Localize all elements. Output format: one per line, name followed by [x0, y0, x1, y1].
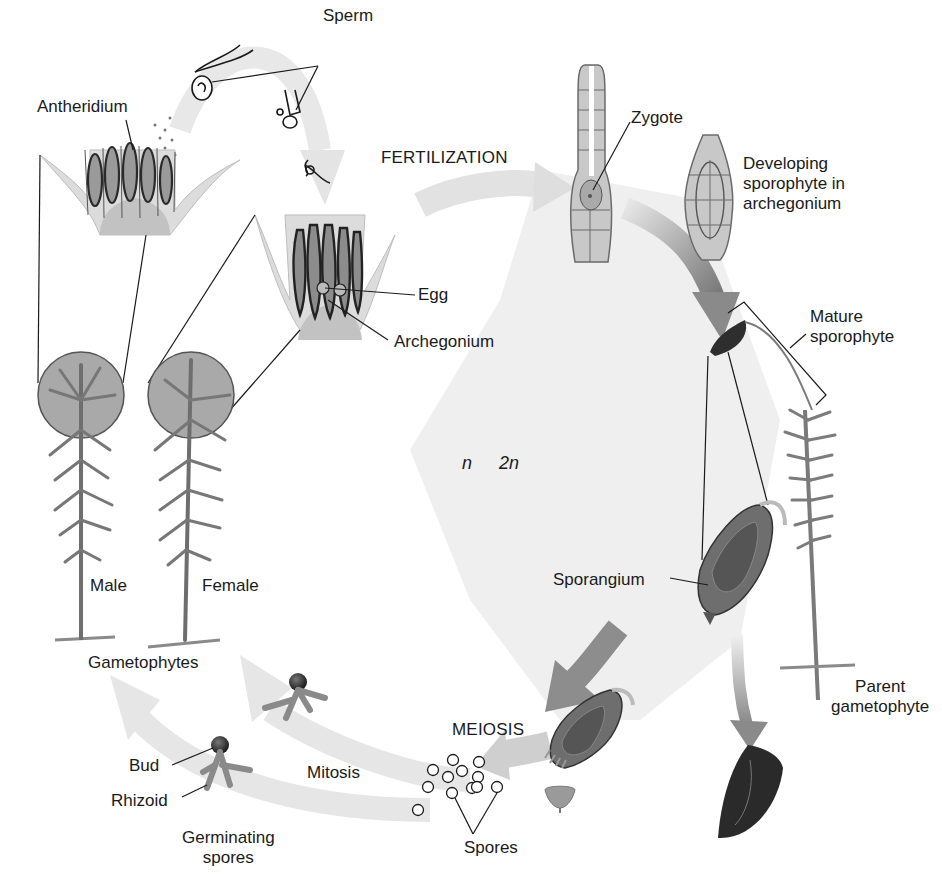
- label-male: Male: [90, 576, 127, 596]
- male-gametophyte: [38, 352, 124, 640]
- label-archegonium: Archegonium: [394, 332, 494, 352]
- spores-leader-lines: [455, 793, 497, 834]
- zygote-archegonium: [571, 65, 612, 262]
- label-rhizoid: Rhizoid: [111, 791, 168, 811]
- label-sporangium: Sporangium: [553, 570, 645, 590]
- label-developing-sporophyte: Developing sporophyte in archegonium: [743, 154, 845, 214]
- operculum: [545, 786, 575, 813]
- label-mitosis: Mitosis: [307, 763, 360, 783]
- label-spores: Spores: [464, 838, 518, 858]
- label-germinating-spores: Germinating spores: [182, 828, 275, 868]
- calyptra: [718, 745, 783, 838]
- antheridium-illustration: [40, 143, 240, 235]
- label-bud: Bud: [129, 756, 159, 776]
- label-mature-sporophyte: Mature sporophyte: [810, 307, 894, 347]
- label-zygote: Zygote: [631, 108, 683, 128]
- moss-life-cycle-diagram: Sperm Antheridium FERTILIZATION Zygote D…: [0, 0, 942, 892]
- label-sperm: Sperm: [323, 6, 373, 26]
- label-parent-gametophyte: Parent gametophyte: [831, 677, 929, 717]
- label-diploid-2n: 2n: [499, 453, 519, 473]
- female-gametophyte: [148, 352, 234, 647]
- label-meiosis: MEIOSIS: [452, 720, 524, 740]
- label-female: Female: [202, 576, 259, 596]
- label-gametophytes: Gametophytes: [88, 653, 199, 673]
- label-egg: Egg: [418, 285, 448, 305]
- label-fertilization: FERTILIZATION: [381, 148, 508, 168]
- label-haploid-n: n: [462, 453, 472, 473]
- label-antheridium: Antheridium: [37, 97, 128, 117]
- archegonium-illustration: [255, 215, 395, 340]
- developing-sporophyte: [685, 135, 733, 260]
